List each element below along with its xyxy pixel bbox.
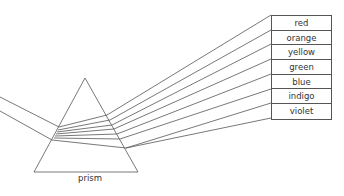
ray-yellow bbox=[112, 44, 271, 125]
spectrum-row-indigo: indigo bbox=[272, 89, 331, 104]
incoming-ray-bottom bbox=[0, 111, 52, 140]
prism-label: prism bbox=[78, 173, 102, 183]
spectrum-row-orange: orange bbox=[272, 31, 331, 46]
ray-green bbox=[114, 59, 271, 129]
ray-red bbox=[107, 15, 271, 115]
spectrum-row-violet: violet bbox=[272, 104, 331, 119]
spectrum-row-green: green bbox=[272, 60, 331, 75]
spectrum-row-yellow: yellow bbox=[272, 45, 331, 60]
incoming-ray-top bbox=[0, 97, 59, 127]
ray-indigo bbox=[120, 89, 271, 139]
ray-extra bbox=[126, 118, 271, 148]
spectrum-row-red: red bbox=[272, 16, 331, 31]
spectrum-table: red orange yellow green blue indigo viol… bbox=[271, 15, 332, 120]
ray-violet bbox=[126, 103, 271, 148]
spectrum-row-blue: blue bbox=[272, 75, 331, 90]
ray-orange bbox=[110, 30, 271, 120]
